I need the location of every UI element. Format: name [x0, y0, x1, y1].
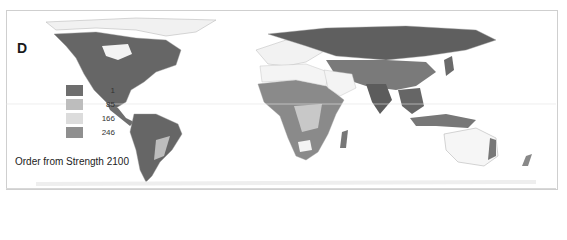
legend-item: 85 — [66, 98, 115, 111]
legend-label: 246 — [85, 128, 115, 137]
legend: 1 85 166 246 — [66, 84, 115, 140]
map-caption: Order from Strength 2100 — [15, 156, 129, 167]
japan — [444, 56, 454, 76]
legend-swatch — [66, 127, 83, 138]
antarctica — [36, 180, 536, 186]
legend-label: 1 — [85, 86, 115, 95]
legend-item: 246 — [66, 126, 115, 139]
madagascar — [340, 130, 348, 148]
legend-swatch — [66, 113, 83, 124]
legend-swatch — [66, 99, 83, 110]
bottom-divider — [6, 188, 556, 189]
panel-letter: D — [17, 40, 27, 56]
new-zealand — [522, 154, 532, 166]
legend-item: 166 — [66, 112, 115, 125]
legend-label: 85 — [85, 100, 115, 109]
southeast-asia — [398, 88, 424, 114]
legend-label: 166 — [85, 114, 115, 123]
legend-item: 1 — [66, 84, 115, 97]
legend-swatch — [66, 85, 83, 96]
indonesia — [410, 114, 476, 128]
kalahari — [298, 140, 312, 152]
